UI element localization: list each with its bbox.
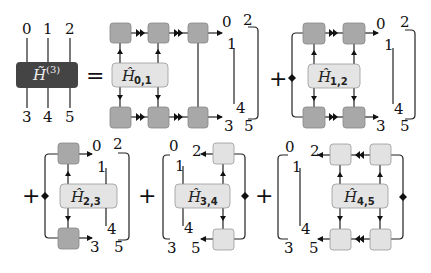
tensor-network-diagram: H̃ (3) 0 1 2 3 4 5 =	[0, 0, 431, 273]
svg-text:1: 1	[227, 35, 237, 53]
svg-text:Ĥ: Ĥ	[343, 188, 358, 206]
svg-text:4: 4	[43, 108, 53, 126]
term-h23: + Ĥ 2,3 0 2 1 4 3 5	[22, 135, 129, 256]
svg-text:2,3: 2,3	[83, 196, 101, 207]
svg-text:3: 3	[90, 238, 100, 256]
svg-text:+: +	[22, 183, 40, 208]
svg-text:3,4: 3,4	[200, 196, 218, 207]
term-h45: + Ĥ 4,5 0 2 1 4 3 5	[255, 138, 407, 257]
svg-text:0: 0	[376, 15, 386, 33]
svg-text:0,1: 0,1	[134, 75, 152, 86]
svg-text:+: +	[138, 183, 156, 208]
lhs-mpo-operator: H̃ (3) 0 1 2 3 4 5	[16, 20, 78, 126]
svg-text:+: +	[255, 183, 273, 208]
svg-text:1: 1	[43, 20, 53, 38]
svg-text:5: 5	[191, 239, 201, 257]
svg-text:4: 4	[394, 100, 404, 118]
svg-text:2: 2	[113, 135, 123, 153]
svg-text:2: 2	[400, 13, 410, 31]
svg-text:1: 1	[292, 158, 302, 176]
svg-text:2: 2	[310, 142, 320, 160]
svg-text:4: 4	[184, 219, 194, 237]
svg-text:0: 0	[222, 13, 232, 31]
svg-text:1,2: 1,2	[330, 76, 348, 87]
svg-text:4: 4	[236, 99, 246, 117]
svg-text:0: 0	[285, 138, 295, 156]
svg-text:0: 0	[169, 137, 179, 155]
svg-text:5: 5	[400, 117, 410, 135]
svg-text:2: 2	[243, 11, 253, 29]
equals-sign: =	[86, 63, 104, 88]
svg-text:4,5: 4,5	[357, 196, 375, 207]
svg-text:3: 3	[22, 108, 32, 126]
svg-text:0: 0	[22, 20, 32, 38]
svg-text:2: 2	[65, 20, 75, 38]
svg-text:3: 3	[376, 117, 386, 135]
svg-text:(3): (3)	[46, 64, 60, 75]
svg-text:3: 3	[167, 239, 177, 257]
term-h34: + Ĥ 3,4 0 2 1 4 3 5	[138, 137, 249, 257]
svg-text:H̃: H̃	[32, 66, 47, 84]
svg-text:0: 0	[92, 137, 102, 155]
svg-text:1: 1	[97, 158, 107, 176]
svg-text:3: 3	[284, 239, 294, 257]
svg-text:5: 5	[309, 239, 319, 257]
svg-text:+: +	[269, 66, 287, 91]
svg-text:1: 1	[384, 36, 394, 54]
svg-text:1: 1	[175, 157, 185, 175]
svg-text:5: 5	[114, 238, 124, 256]
term-h01: Ĥ 0,1 0 2 1 4 3 5	[110, 11, 258, 135]
svg-text:3: 3	[224, 117, 234, 135]
term-h12: + Ĥ 1,2 0 2 1 4 3 5	[269, 13, 415, 135]
svg-text:5: 5	[65, 108, 75, 126]
svg-text:4: 4	[107, 220, 117, 238]
svg-text:2: 2	[192, 142, 202, 160]
svg-text:4: 4	[301, 220, 311, 238]
svg-text:5: 5	[244, 117, 254, 135]
